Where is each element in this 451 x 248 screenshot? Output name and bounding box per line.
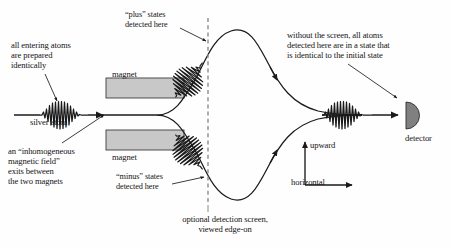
label-axis-horizontal: horizontal — [291, 177, 325, 187]
magnet-top-rect — [106, 78, 184, 98]
figure-canvas: all entering atoms are prepared identica… — [0, 0, 451, 248]
label-silver-atom: silver atom — [30, 117, 67, 127]
label-detector: detector — [405, 133, 432, 143]
label-plus-states: “plus” states detected here — [125, 10, 168, 30]
outgoing-wavepacket — [322, 102, 372, 130]
label-detection-screen: optional detection screen, viewed edge-o… — [141, 214, 309, 234]
plus-states-leader — [180, 28, 206, 41]
label-inhomogeneous-field: an “inhomogeneous magnetic field” exits … — [8, 146, 75, 187]
label-magnet-bottom: magnet — [112, 152, 137, 162]
label-minus-states: “minus” states detected here — [116, 172, 163, 192]
label-axis-upward: upward — [310, 140, 335, 150]
minus-branch-direction-arrow — [270, 152, 276, 163]
minus-states-leader — [172, 177, 204, 184]
plus-branch-direction-arrow — [270, 67, 276, 78]
label-entering-atoms: all entering atoms are prepared identica… — [11, 40, 71, 70]
magnet-bottom-rect — [106, 130, 184, 150]
without-screen-leader — [348, 64, 397, 98]
entering-atoms-leader — [45, 74, 57, 101]
label-magnet-top: magnet — [112, 69, 137, 79]
label-without-screen: without the screen, all atoms detected h… — [287, 30, 390, 60]
detector-icon — [406, 102, 419, 129]
